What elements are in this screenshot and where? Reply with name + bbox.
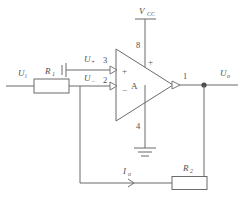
resistor-R1-label: R [44,66,51,76]
output-current-label-sub: o [128,171,131,177]
supply-rail-sign: + [148,57,153,67]
pin-label-inverting: 2 [103,75,107,85]
resistor-R2-label-sub: 2 [190,168,193,174]
pin-label-ground: 4 [136,121,141,131]
pin-label-noninverting: 3 [103,55,107,65]
input-voltage-label: U [18,68,25,78]
resistor-R1-label-sub: 1 [52,71,55,77]
noninverting-input-label-sub: + [91,59,95,65]
supply-label: V [139,6,146,16]
inverting-sign: − [122,85,127,95]
inverting-input-label-sub: − [91,78,95,84]
output-voltage-label: U [220,68,227,78]
noninverting-input-label: U [84,54,91,64]
output-current-label: I [122,166,127,176]
pin-label-supply: 8 [136,40,140,50]
resistor-R2-label: R [182,163,189,173]
amplifier-label: A [131,81,138,91]
output-voltage-label-sub: o [227,73,230,79]
circuit-diagram: V CC U i R 1 U + U − 3 2 8 4 1 + − + A U… [0,0,245,204]
inverting-input-label: U [84,73,91,83]
supply-label-sub: CC [147,11,156,17]
pin-label-output: 1 [183,71,187,81]
label-layer: V CC U i R 1 U + U − 3 2 8 4 1 + − + A U… [0,0,245,204]
input-voltage-label-sub: i [25,73,27,79]
noninverting-sign: + [122,66,127,76]
